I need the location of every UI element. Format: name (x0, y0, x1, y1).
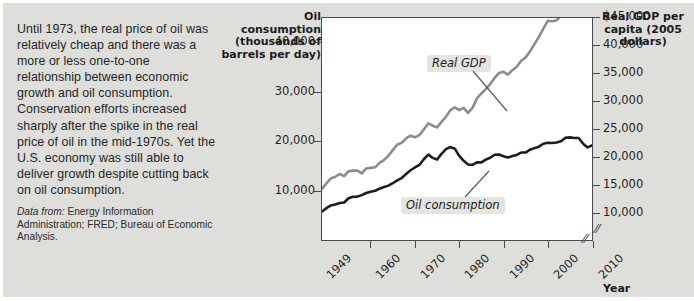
x-tick-label: 1970 (417, 251, 448, 282)
left-tick-label: 40,000 (235, 34, 315, 48)
x-tick-mark (593, 241, 594, 248)
right-tick-mark (593, 185, 600, 186)
x-tick-label: 2000 (551, 251, 582, 282)
x-tick-mark (504, 241, 505, 248)
right-tick-label: 35,000 (603, 65, 683, 79)
x-axis-break-icon: ⁄⁄ (583, 231, 587, 246)
source-lead-label: Data from: (17, 206, 65, 217)
right-tick-label: 10,000 (603, 205, 683, 219)
right-tick-label: 15,000 (603, 177, 683, 191)
right-tick-mark (593, 73, 600, 74)
x-tick-label: 2010 (596, 251, 627, 282)
right-tick-label: 30,000 (603, 93, 683, 107)
right-axis-break-icon: ⁄⁄ (595, 221, 599, 236)
right-tick-label: 40,000 (603, 37, 683, 51)
x-tick-label: 1980 (462, 251, 493, 282)
caption-block: Until 1973, the real price of oil was re… (17, 21, 217, 244)
x-tick-mark (415, 241, 416, 248)
caption-body: Until 1973, the real price of oil was re… (17, 21, 217, 198)
left-tick-mark (314, 42, 321, 43)
series-label-oil-consumption: Oil consumption (401, 197, 505, 214)
figure-panel: Until 1973, the real price of oil was re… (0, 0, 694, 301)
right-tick-mark (593, 45, 600, 46)
left-tick-label: 20,000 (235, 133, 315, 147)
right-tick-label: 25,000 (603, 121, 683, 135)
right-tick-mark (593, 213, 600, 214)
chart: Oil consumption (thousands of barrels pe… (221, 3, 694, 301)
right-tick-mark (593, 129, 600, 130)
series-label-real-gdp: Real GDP (427, 55, 491, 72)
left-tick-mark (314, 141, 321, 142)
right-tick-label: 20,000 (603, 149, 683, 163)
series-line-real-gdp (322, 18, 592, 189)
left-tick-mark (314, 191, 321, 192)
x-tick-label: 1949 (324, 251, 355, 282)
right-tick-mark (593, 101, 600, 102)
x-tick-label: 1990 (506, 251, 537, 282)
x-axis-title: Year (603, 283, 673, 296)
x-tick-label: 1960 (373, 251, 404, 282)
left-tick-label: 10,000 (235, 183, 315, 197)
left-tick-label: 30,000 (235, 84, 315, 98)
right-tick-label: $45,000 (603, 9, 683, 23)
x-tick-mark (459, 241, 460, 248)
left-tick-mark (314, 92, 321, 93)
right-tick-mark (593, 17, 600, 18)
x-tick-mark (548, 241, 549, 248)
x-tick-mark (370, 241, 371, 248)
caption-source: Data from: Energy Information Administra… (17, 206, 217, 244)
right-tick-mark (593, 157, 600, 158)
